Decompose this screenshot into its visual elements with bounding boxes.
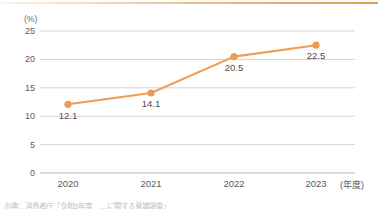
series-line bbox=[68, 45, 316, 104]
x-tick-2020: 2020 bbox=[45, 178, 91, 189]
x-tick-2023: 2023 bbox=[293, 178, 339, 189]
data-point-2021 bbox=[147, 89, 154, 96]
x-tick-2021: 2021 bbox=[128, 178, 174, 189]
data-label-2023: 22.5 bbox=[296, 50, 336, 61]
x-axis-unit-label: (年度) bbox=[340, 178, 364, 191]
data-label-2022: 20.5 bbox=[214, 62, 254, 73]
x-tick-2022: 2022 bbox=[211, 178, 257, 189]
source-note: 出典：消費者庁「令和5年度 …に関する意識調査」 bbox=[4, 200, 376, 209]
data-label-2021: 14.1 bbox=[131, 98, 171, 109]
data-point-2022 bbox=[230, 53, 237, 60]
data-label-2020: 12.1 bbox=[48, 110, 88, 121]
data-point-2020 bbox=[64, 101, 71, 108]
line-chart: (%) 25 20 15 10 5 0 12.1 14.1 20.5 22.5 … bbox=[0, 0, 378, 209]
data-point-2023 bbox=[312, 42, 319, 49]
